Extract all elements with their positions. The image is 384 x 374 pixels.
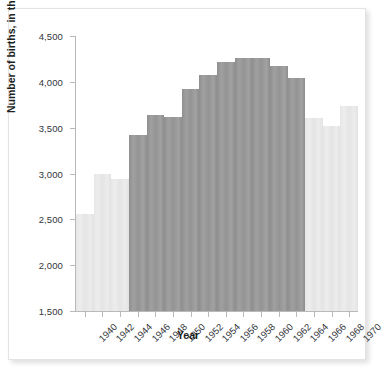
- y-tick-label: 4,000: [39, 76, 63, 87]
- y-tick-2000: 2,000: [70, 265, 75, 266]
- bar-1960: [252, 58, 270, 311]
- bar-1950: [164, 117, 182, 311]
- y-tick-4500: 4,500: [70, 36, 75, 37]
- x-axis-line: [75, 311, 358, 312]
- y-tick-3500: 3,500: [70, 128, 75, 129]
- x-tick-1964: [296, 312, 297, 317]
- x-axis-title: Year: [9, 329, 367, 341]
- bar-1964: [288, 78, 306, 311]
- bar-1962: [270, 66, 288, 311]
- bar-1952: [182, 89, 200, 311]
- chart-card: 1,5002,0002,5003,0003,5004,0004,500 1940…: [8, 8, 366, 360]
- bar-1968: [323, 126, 341, 311]
- bar-1954: [199, 75, 217, 312]
- y-tick-3000: 3,000: [70, 174, 75, 175]
- y-tick-2500: 2,500: [70, 219, 75, 220]
- x-tick-1952: [191, 312, 192, 317]
- x-tick-1962: [279, 312, 280, 317]
- bar-1940: [76, 214, 94, 311]
- y-tick-label: 2,500: [39, 214, 63, 225]
- bar-1948: [147, 115, 165, 311]
- y-tick-label: 3,500: [39, 122, 63, 133]
- x-tick-1968: [332, 312, 333, 317]
- x-tick-1950: [173, 312, 174, 317]
- x-tick-1954: [208, 312, 209, 317]
- bar-1958: [235, 58, 253, 311]
- x-tick-1944: [120, 312, 121, 317]
- x-tick-1940: [85, 312, 86, 317]
- y-tick-label: 1,500: [39, 306, 63, 317]
- plot-area: 1,5002,0002,5003,0003,5004,0004,500 1940…: [75, 36, 357, 311]
- y-tick-4000: 4,000: [70, 82, 75, 83]
- y-tick-1500: 1,500: [70, 311, 75, 312]
- x-tick-1948: [155, 312, 156, 317]
- bar-1966: [305, 118, 323, 311]
- x-tick-1960: [261, 312, 262, 317]
- x-tick-1970: [349, 312, 350, 317]
- bar-1944: [111, 179, 129, 311]
- y-tick-label: 3,000: [39, 168, 63, 179]
- y-tick-label: 2,000: [39, 260, 63, 271]
- bar-1956: [217, 62, 235, 311]
- x-tick-1958: [243, 312, 244, 317]
- bar-1942: [94, 174, 112, 311]
- x-tick-1946: [138, 312, 139, 317]
- bar-1970: [340, 106, 358, 311]
- x-tick-1942: [102, 312, 103, 317]
- bar-1946: [129, 135, 147, 311]
- x-tick-1966: [314, 312, 315, 317]
- y-tick-label: 4,500: [39, 31, 63, 42]
- y-axis-title: Number of births, in thousands: [5, 0, 17, 113]
- x-tick-1956: [226, 312, 227, 317]
